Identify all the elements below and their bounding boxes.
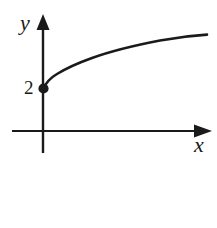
y-intercept-point: [38, 83, 48, 93]
y-axis-label: y: [20, 12, 30, 34]
graph-figure: y x 2: [0, 0, 217, 228]
y-intercept-tick-label: 2: [24, 78, 34, 97]
x-axis-label: x: [194, 134, 204, 156]
y-axis-arrowhead: [37, 14, 50, 30]
coordinate-plot: [0, 0, 217, 228]
curve-path: [44, 35, 208, 89]
